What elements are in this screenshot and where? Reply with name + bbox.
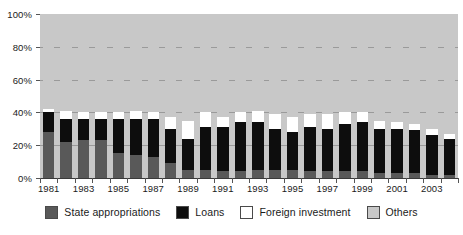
bar-segment [148, 14, 159, 112]
bar-segment [165, 163, 176, 178]
stacked-bar[interactable] [426, 14, 437, 178]
bar-segment [374, 14, 385, 121]
legend-item[interactable]: Loans [176, 206, 224, 219]
bar-segment [269, 170, 280, 178]
stacked-bar-chart: 0%20%40%60%80%100% 198119831985198719891… [0, 0, 463, 235]
bar-slot [406, 14, 423, 178]
bar-segment [357, 122, 368, 171]
bar-segment [409, 130, 420, 173]
stacked-bar[interactable] [148, 14, 159, 178]
stacked-bar[interactable] [235, 14, 246, 178]
bar-slot [388, 14, 405, 178]
bar-segment [182, 121, 193, 139]
stacked-bar[interactable] [374, 14, 385, 178]
plot-area [40, 14, 458, 178]
bar-segment [269, 129, 280, 170]
bar-segment [304, 114, 315, 127]
x-axis-tick-label: 1985 [108, 183, 130, 194]
y-axis-labels: 0%20%40%60%80%100% [0, 0, 36, 196]
bar-segment [217, 14, 228, 117]
stacked-bar[interactable] [60, 14, 71, 178]
x-axis-tick-label: 2003 [421, 183, 443, 194]
bar-slot [75, 14, 92, 178]
stacked-bar[interactable] [130, 14, 141, 178]
bar-segment [148, 157, 159, 178]
bar-segment [357, 14, 368, 112]
stacked-bar[interactable] [357, 14, 368, 178]
legend-swatch-icon [176, 206, 189, 219]
stacked-bar[interactable] [269, 14, 280, 178]
bar-slot [319, 14, 336, 178]
bar-segment [444, 139, 455, 175]
x-axis-tick-label: 1989 [177, 183, 199, 194]
legend-swatch-icon [240, 206, 253, 219]
stacked-bar[interactable] [217, 14, 228, 178]
bar-segment [287, 170, 298, 178]
legend-item[interactable]: State appropriations [45, 206, 160, 219]
bar-segment [113, 153, 124, 178]
bar-segment [182, 139, 193, 170]
bar-segment [252, 111, 263, 122]
bar-slot [423, 14, 440, 178]
bar-segment [304, 14, 315, 114]
stacked-bar[interactable] [409, 14, 420, 178]
bar-slot [179, 14, 196, 178]
y-axis-tick-label: 40% [13, 107, 32, 118]
bar-segment [304, 127, 315, 171]
bar-segment [339, 112, 350, 123]
bar-segment [200, 14, 211, 112]
stacked-bar[interactable] [391, 14, 402, 178]
bar-slot [249, 14, 266, 178]
bar-segment [322, 14, 333, 114]
legend-swatch-icon [367, 206, 380, 219]
stacked-bar[interactable] [304, 14, 315, 178]
bar-segment [287, 132, 298, 170]
bar-segment [252, 170, 263, 178]
bar-segment [130, 111, 141, 119]
bar-segment [148, 119, 159, 157]
bar-segment [60, 119, 71, 142]
bar-slot [197, 14, 214, 178]
bar-slot [57, 14, 74, 178]
bar-segment [113, 119, 124, 153]
bar-segment [130, 155, 141, 178]
stacked-bar[interactable] [113, 14, 124, 178]
bar-slot [232, 14, 249, 178]
bar-series-group [40, 14, 458, 178]
stacked-bar[interactable] [252, 14, 263, 178]
bar-segment [217, 117, 228, 127]
stacked-bar[interactable] [165, 14, 176, 178]
bar-slot [441, 14, 458, 178]
bar-slot [301, 14, 318, 178]
stacked-bar[interactable] [339, 14, 350, 178]
bar-segment [269, 14, 280, 114]
bar-slot [354, 14, 371, 178]
stacked-bar[interactable] [444, 14, 455, 178]
legend-item[interactable]: Foreign investment [240, 206, 350, 219]
x-axis-tickmark [458, 178, 459, 183]
legend-item[interactable]: Others [367, 206, 418, 219]
bar-segment [235, 112, 246, 122]
bar-segment [78, 14, 89, 112]
bar-segment [60, 14, 71, 111]
bar-segment [182, 170, 193, 178]
bar-segment [409, 14, 420, 124]
bar-segment [165, 14, 176, 117]
legend-label: Loans [195, 206, 224, 218]
stacked-bar[interactable] [287, 14, 298, 178]
bar-slot [266, 14, 283, 178]
stacked-bar[interactable] [182, 14, 193, 178]
bar-segment [235, 14, 246, 112]
bar-segment [95, 140, 106, 178]
stacked-bar[interactable] [200, 14, 211, 178]
stacked-bar[interactable] [43, 14, 54, 178]
bar-slot [127, 14, 144, 178]
bar-segment [287, 117, 298, 132]
stacked-bar[interactable] [95, 14, 106, 178]
x-axis-tick-label: 1999 [351, 183, 373, 194]
stacked-bar[interactable] [78, 14, 89, 178]
y-axis-tick-label: 0% [18, 173, 32, 184]
bar-segment [391, 129, 402, 173]
stacked-bar[interactable] [322, 14, 333, 178]
x-axis-tick-label: 1997 [317, 183, 339, 194]
